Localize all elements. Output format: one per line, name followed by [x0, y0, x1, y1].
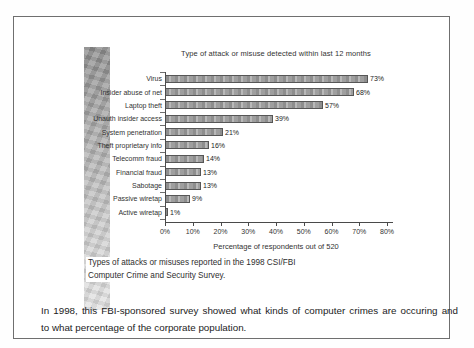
chart-row: Insider abuse of net68%: [74, 85, 404, 98]
x-tick: [221, 222, 222, 226]
bar-track: 73%: [165, 72, 404, 85]
bar-track: 68%: [165, 85, 404, 98]
x-tick-label: 10%: [178, 228, 208, 235]
category-label: Financial fraud: [74, 169, 165, 176]
bar-track: 13%: [165, 166, 404, 179]
chart-row: Passive wiretap9%: [74, 192, 404, 205]
bar-track: 21%: [165, 125, 404, 138]
bar: [165, 182, 201, 190]
x-tick-label: 70%: [344, 228, 374, 235]
bar: [165, 75, 368, 83]
scanned-page: Type of attack or misuse detected within…: [0, 0, 474, 348]
x-tick: [387, 222, 388, 226]
bar-track: 14%: [165, 152, 404, 165]
x-tick: [276, 222, 277, 226]
category-label: Telecomm fraud: [74, 155, 165, 162]
chart-row: Unauth insider access39%: [74, 112, 404, 125]
y-axis-line: [165, 72, 166, 223]
figure-caption: Types of attacks or misuses reported in …: [86, 257, 298, 282]
chart-rows: Virus73%Insider abuse of net68%Laptop th…: [74, 72, 404, 219]
x-tick-label: 60%: [317, 228, 347, 235]
bar-track: 39%: [165, 112, 404, 125]
body-paragraph-line-1: In 1998, this FBI-sponsored survey showe…: [41, 303, 458, 320]
bar: [165, 88, 354, 96]
bar-value-label: 16%: [211, 142, 225, 149]
bar-value-label: 68%: [356, 89, 370, 96]
figure-frame: Type of attack or misuse detected within…: [13, 16, 450, 339]
x-tick: [304, 222, 305, 226]
chart-title: Type of attack or misuse detected within…: [159, 49, 393, 58]
category-label: Passive wiretap: [74, 195, 165, 202]
category-label: Virus: [74, 75, 165, 82]
x-axis-ticks: 0%10%20%30%40%50%60%70%80%: [165, 222, 393, 240]
x-tick: [332, 222, 333, 226]
bar-track: 13%: [165, 179, 404, 192]
category-label: Active wiretap: [74, 209, 165, 216]
bar: [165, 115, 273, 123]
chart-row: Virus73%: [74, 72, 404, 85]
bar-track: 1%: [165, 206, 404, 219]
category-label: Insider abuse of net: [74, 89, 165, 96]
bar-track: 57%: [165, 99, 404, 112]
chart-row: Sabotage13%: [74, 179, 404, 192]
x-tick-label: 0%: [150, 228, 180, 235]
body-paragraph-line-2: to what percentage of the corporate popu…: [41, 320, 458, 337]
bar: [165, 141, 209, 149]
bar-value-label: 73%: [370, 75, 384, 82]
x-tick-label: 30%: [233, 228, 263, 235]
bar-value-label: 13%: [203, 182, 217, 189]
chart-row: Active wiretap1%: [74, 206, 404, 219]
x-tick-label: 50%: [289, 228, 319, 235]
x-axis-label: Percentage of respondents out of 520: [159, 242, 393, 251]
category-label: Laptop theft: [74, 102, 165, 109]
chart-row: System penetration21%: [74, 125, 404, 138]
x-tick-label: 20%: [206, 228, 236, 235]
bar: [165, 101, 323, 109]
figure-caption-line-2: Computer Crime and Security Survey.: [86, 270, 227, 283]
x-tick: [248, 222, 249, 226]
bar-value-label: 21%: [225, 129, 239, 136]
chart-row: Theft proprietary info16%: [74, 139, 404, 152]
x-tick-label: 80%: [372, 228, 402, 235]
x-tick: [359, 222, 360, 226]
x-tick: [193, 222, 194, 226]
category-label: Unauth insider access: [74, 115, 165, 122]
x-tick: [165, 222, 166, 226]
category-label: System penetration: [74, 129, 165, 136]
category-label: Sabotage: [74, 182, 165, 189]
bar-value-label: 57%: [325, 102, 339, 109]
bar-value-label: 9%: [192, 195, 202, 202]
bar-value-label: 39%: [275, 115, 289, 122]
bar: [165, 195, 190, 203]
bar: [165, 168, 201, 176]
chart-row: Laptop theft57%: [74, 99, 404, 112]
bar-value-label: 13%: [203, 169, 217, 176]
bar-value-label: 1%: [170, 209, 180, 216]
bar: [165, 155, 204, 163]
x-tick-label: 40%: [261, 228, 291, 235]
chart-row: Telecomm fraud14%: [74, 152, 404, 165]
bar-track: 9%: [165, 192, 404, 205]
figure-caption-line-1: Types of attacks or misuses reported in …: [86, 257, 298, 270]
bar-value-label: 14%: [206, 155, 220, 162]
body-paragraph: In 1998, this FBI-sponsored survey showe…: [41, 303, 458, 336]
bar: [165, 128, 223, 136]
chart-row: Financial fraud13%: [74, 166, 404, 179]
category-label: Theft proprietary info: [74, 142, 165, 149]
bar-track: 16%: [165, 139, 404, 152]
